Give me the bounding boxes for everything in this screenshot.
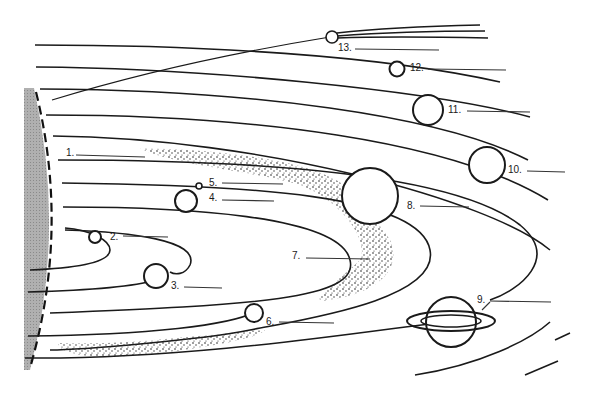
ringed-planet-body <box>426 297 476 347</box>
moon-5 <box>196 183 202 189</box>
label-7: 7. <box>292 250 300 261</box>
orbit-6 <box>50 207 351 313</box>
sun <box>24 88 52 370</box>
orbit-11 <box>40 89 528 160</box>
label-1: 1. <box>66 147 74 158</box>
answer-line-13[interactable] <box>355 49 439 50</box>
answer-line-11[interactable] <box>467 111 530 112</box>
sun-body <box>24 88 49 370</box>
comet-13 <box>326 25 488 43</box>
label-8: 8. <box>407 200 415 211</box>
answer-line-3[interactable] <box>184 287 222 288</box>
answer-line-1[interactable] <box>76 155 145 157</box>
comet-tail-3 <box>337 37 488 38</box>
answer-line-4[interactable] <box>222 200 274 201</box>
comet-head <box>326 31 338 43</box>
solar-system-diagram: 1. 2. 3. 4. 5. 6. 7. 8. 9. 10. 11. 12. 1… <box>0 0 592 397</box>
planet-3 <box>144 264 168 288</box>
answer-line-9[interactable] <box>490 301 551 302</box>
orbits <box>25 37 570 375</box>
label-10: 10. <box>508 164 522 175</box>
planet-2 <box>89 231 101 243</box>
answer-line-10[interactable] <box>527 171 565 172</box>
comet-tail-2 <box>337 31 485 36</box>
label-5: 5. <box>209 177 217 188</box>
orbit-6-lower <box>28 312 255 336</box>
label-2: 2. <box>110 231 118 242</box>
answer-line-7[interactable] <box>306 258 370 259</box>
label-3: 3. <box>171 280 179 291</box>
orbit-12-upper <box>35 45 500 82</box>
label-12: 12. <box>410 62 424 73</box>
label-11: 11. <box>448 104 461 115</box>
label-6: 6. <box>266 316 274 327</box>
planet-8 <box>342 168 398 224</box>
planet-6 <box>245 304 263 322</box>
planet-12 <box>390 62 405 77</box>
orbit-lower-3 <box>525 361 558 375</box>
answer-line-2[interactable] <box>123 236 168 237</box>
planet-10 <box>469 147 505 183</box>
answer-line-5[interactable] <box>222 183 283 184</box>
asteroid-belt <box>140 148 393 301</box>
orbit-lower-4 <box>555 333 570 340</box>
planet-4 <box>175 190 197 212</box>
label-4: 4. <box>209 192 217 203</box>
label-9: 9. <box>477 294 485 305</box>
planet-11 <box>413 95 443 125</box>
label-13: 13. <box>338 42 352 53</box>
